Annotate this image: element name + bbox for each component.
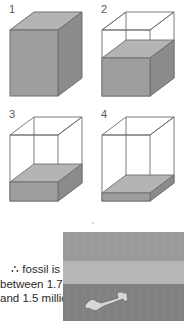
half-life-figure: 1 2: [0, 0, 184, 321]
strata-top-layer: [63, 232, 184, 261]
box3-fill-front: [10, 182, 58, 201]
box4-fill-front: [102, 193, 150, 201]
caption-line-2: between 1.75: [0, 277, 60, 292]
cube-panel-2: 2: [92, 0, 184, 109]
cube-panel-1: 1: [0, 0, 92, 109]
caption-line-1: ∴ fossil is: [0, 262, 60, 277]
cube-diagram-2: [92, 0, 184, 109]
box1-front-face: [10, 30, 58, 96]
conclusion-caption: ∴ fossil is between 1.75 and 1.5 million: [0, 262, 60, 306]
cube-diagram-1: [0, 0, 92, 109]
cube-panel-grid: 1 2: [0, 0, 184, 218]
caption-line-3: and 1.5 million: [0, 291, 60, 306]
conclusion-section: ∴ fossil is between 1.75 and 1.5 million: [0, 218, 184, 321]
speck-mark: [92, 222, 94, 224]
box3-fill: [10, 164, 82, 201]
cube-diagram-4: [92, 105, 184, 214]
box2-fill-front: [102, 58, 150, 96]
box2-fill: [102, 40, 174, 96]
strata-bottom-layer: [63, 284, 184, 321]
box4-fill: [102, 175, 174, 201]
strata-middle-layer: [63, 261, 184, 284]
strata-diagram: [63, 232, 184, 321]
cube-panel-4: 4: [92, 105, 184, 214]
cube-diagram-3: [0, 105, 92, 214]
cube-panel-3: 3: [0, 105, 92, 214]
